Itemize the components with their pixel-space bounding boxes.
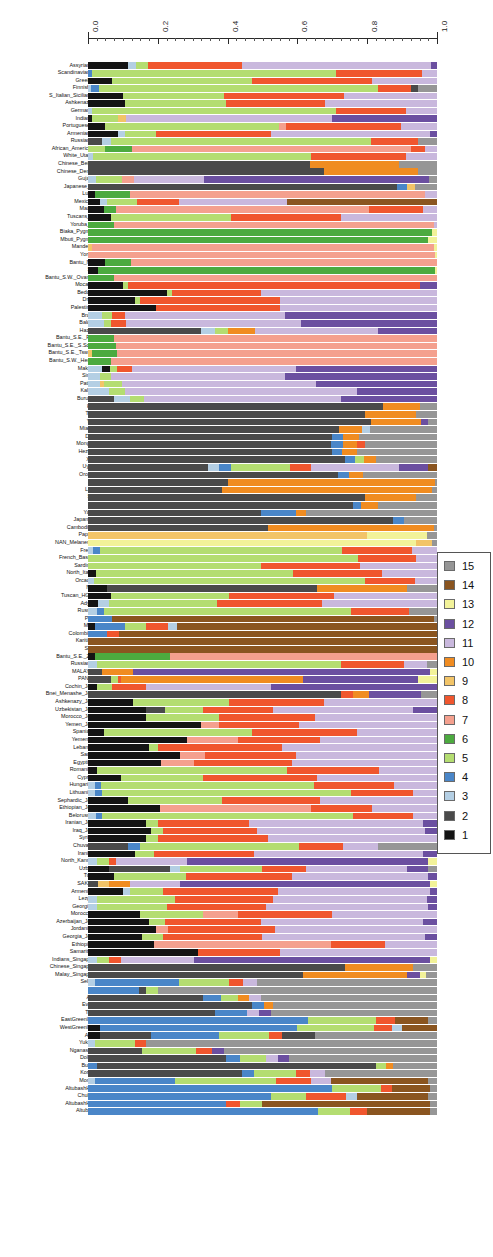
bar-segment-cluster-8: [137, 199, 179, 206]
axis-major-tick: [367, 38, 368, 44]
legend-item-13[interactable]: 13: [444, 597, 474, 611]
bar-segment-cluster-3: [88, 858, 97, 865]
bar-segment-cluster-11: [179, 199, 287, 206]
legend-item-6[interactable]: 6: [444, 732, 468, 746]
bar-segment-cluster-13: [432, 229, 437, 236]
bar-segment-cluster-3: [88, 608, 97, 615]
legend-item-3[interactable]: 3: [444, 789, 468, 803]
legend-item-8[interactable]: 8: [444, 693, 468, 707]
legend-item-10[interactable]: 10: [444, 655, 474, 669]
bar-segment-cluster-1: [88, 123, 105, 130]
legend-item-14[interactable]: 14: [444, 578, 474, 592]
cluster-legend: 151413121110987654321: [437, 552, 491, 854]
legend-item-1[interactable]: 1: [444, 828, 468, 842]
bar-segment-cluster-12: [425, 828, 437, 835]
stacked-bar: [88, 926, 437, 933]
legend-label-5: 5: [462, 753, 468, 763]
bar-segment-cluster-4: [88, 1093, 271, 1100]
bar-segment-cluster-4: [215, 1010, 246, 1017]
bar-segment-cluster-1: [88, 199, 100, 206]
bar-segment-cluster-12: [180, 881, 430, 888]
bar-segment-cluster-8: [163, 934, 262, 941]
bar-segment-cluster-8: [165, 919, 261, 926]
stacked-bar: [88, 131, 437, 138]
bar-segment-cluster-3: [88, 661, 97, 668]
legend-item-4[interactable]: 4: [444, 770, 468, 784]
stacked-bar: [88, 881, 437, 888]
population-label: S_Italian_Sicilian_D: [0, 92, 97, 99]
legend-swatch-4: [444, 772, 455, 782]
legend-label-9: 9: [462, 676, 468, 686]
stacked-bar: [88, 653, 437, 660]
bar-segment-cluster-3: [100, 199, 107, 206]
legend-label-1: 1: [462, 830, 468, 840]
population-label: Sindhi: [0, 372, 97, 379]
bar-segment-cluster-11: [257, 828, 425, 835]
axis-minor-tick: [184, 38, 185, 41]
stacked-bar: [88, 419, 437, 426]
legend-item-2[interactable]: 2: [444, 809, 468, 823]
population-label: Koryak: [0, 1069, 97, 1076]
bar-segment-cluster-8: [146, 623, 169, 630]
bar-segment-cluster-11: [324, 699, 437, 706]
bar-segment-cluster-12: [212, 1048, 224, 1055]
legend-item-9[interactable]: 9: [444, 674, 468, 688]
bar-segment-cluster-5: [318, 1108, 349, 1115]
bar-segment-cluster-5: [97, 957, 109, 964]
bar-segment-cluster-1: [88, 797, 128, 804]
stacked-bar: [88, 510, 437, 517]
bar-segment-cluster-14: [392, 1085, 430, 1092]
population-label: Colombians: [0, 630, 97, 637]
stacked-bar: [88, 464, 437, 471]
bar-segment-cluster-13: [435, 252, 437, 259]
bar-segment-cluster-12: [427, 896, 437, 903]
legend-label-13: 13: [462, 599, 474, 609]
bar-segment-cluster-1: [88, 851, 135, 858]
bar-segment-cluster-5: [101, 782, 314, 789]
bar-segment-cluster-15: [420, 403, 437, 410]
bar-segment-cluster-14: [402, 1025, 437, 1032]
bar-segment-cluster-5: [97, 767, 287, 774]
stacked-bar: [88, 941, 437, 948]
bar-segment-cluster-10: [228, 479, 436, 486]
bar-segment-cluster-2: [88, 676, 111, 683]
axis-minor-tick: [245, 38, 246, 41]
bar-segment-cluster-11: [261, 290, 437, 297]
bar-segment-cluster-14: [287, 199, 437, 206]
stacked-bar: [88, 691, 437, 698]
stacked-bar: [88, 108, 437, 115]
legend-item-5[interactable]: 5: [444, 751, 468, 765]
bar-segment-cluster-6: [88, 343, 116, 350]
population-label: Mocabifo: [0, 281, 97, 288]
legend-item-7[interactable]: 7: [444, 713, 468, 727]
stacked-bar: [88, 312, 437, 319]
bar-segment-cluster-11: [311, 1078, 330, 1085]
population-label: Uzbeks: [0, 865, 97, 872]
population-label: Selkup: [0, 978, 97, 985]
bar-segment-cluster-11: [357, 729, 437, 736]
stacked-bar: [88, 138, 437, 145]
bar-segment-cluster-15: [306, 510, 437, 517]
bar-segment-cluster-8: [167, 904, 266, 911]
bar-segment-cluster-1: [88, 919, 149, 926]
legend-item-12[interactable]: 12: [444, 617, 474, 631]
legend-item-11[interactable]: 11: [444, 636, 473, 650]
population-label: Greek_D: [0, 77, 97, 84]
bar-segment-cluster-5: [100, 547, 343, 554]
bar-segment-cluster-3: [208, 464, 218, 471]
bar-segment-cluster-15: [370, 426, 437, 433]
bar-segment-cluster-2: [109, 866, 170, 873]
stacked-bar: [88, 972, 437, 979]
bar-segment-cluster-13: [418, 676, 437, 683]
stacked-bar: [88, 191, 437, 198]
bar-segment-cluster-5: [99, 85, 378, 92]
bar-segment-cluster-11: [415, 578, 437, 585]
legend-item-15[interactable]: 15: [444, 559, 474, 573]
bar-segment-cluster-11: [125, 388, 357, 395]
bar-segment-cluster-3: [88, 320, 104, 327]
population-label: Xibo: [0, 456, 97, 463]
stacked-bar: [88, 525, 437, 532]
population-label: Druze: [0, 296, 97, 303]
bar-segment-cluster-5: [102, 312, 112, 319]
bar-segment-cluster-8: [269, 1032, 281, 1039]
